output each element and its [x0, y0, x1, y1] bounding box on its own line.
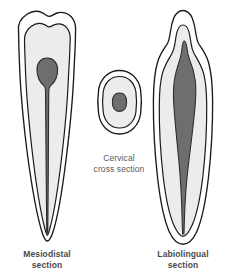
mesiodistal-caption-line2: section [32, 260, 62, 270]
cervical-caption-line1: Cervical [103, 153, 135, 163]
cervical-caption-line2: cross section [94, 164, 145, 174]
labiolingual-caption-line1: Labiolingual [157, 249, 208, 259]
tooth-anatomy-figure: Mesiodistal section Cervical cross secti… [0, 0, 232, 280]
mesiodistal-caption-line1: Mesiodistal [23, 249, 70, 259]
labiolingual-caption-line2: section [168, 260, 198, 270]
cervical-pulp [112, 93, 126, 111]
